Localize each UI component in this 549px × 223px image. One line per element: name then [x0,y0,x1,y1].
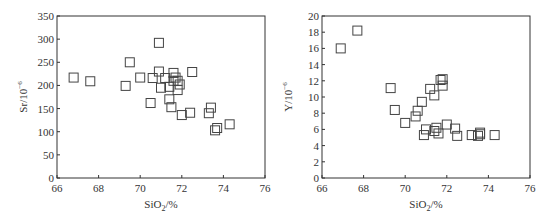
data-point-square [390,105,399,114]
data-point-square [442,120,451,129]
y-tick-label: 200 [38,79,55,91]
data-point-square [422,125,431,134]
x-tick-label: 76 [525,182,537,194]
data-point-square [154,67,163,76]
x-tick-label: 72 [441,182,452,194]
y-tick-label: 100 [38,126,55,138]
data-point-square [419,131,428,140]
plot-area: 666870727476050100150200250300350SiO2/%S… [16,10,271,213]
data-point-square [413,106,422,115]
data-point-square [411,112,420,121]
data-point-square [161,74,170,83]
y-vs-sio2-chart: 66687072747602468101214161820SiO2/%Y/10−… [265,0,540,223]
data-point-square [146,99,155,108]
x-tick-label: 70 [135,182,147,194]
y-tick-label: 18 [308,26,320,38]
y-tick-label: 2 [314,156,320,168]
data-point-square [438,81,447,90]
y-tick-label: 4 [314,140,320,152]
x-tick-label: 68 [358,182,370,194]
data-point-square [86,77,95,86]
axes-frame [57,16,265,178]
y-tick-label: 300 [38,33,55,45]
y-tick-label: 6 [314,123,320,135]
y-axis-label: Y/10−6 [281,82,294,112]
x-tick-label: 72 [176,182,187,194]
data-point-square [438,75,447,84]
data-point-square [173,86,182,95]
data-point-square [213,124,222,133]
x-axis-label: SiO2/% [144,198,177,213]
data-point-square [436,75,445,84]
data-point-square [490,131,499,140]
data-point-square [417,97,426,106]
y-scatter-plot: 66687072747602468101214161820SiO2/%Y/10−… [265,0,540,223]
data-point-square [401,118,410,127]
data-point-square [69,73,78,82]
y-tick-label: 20 [308,10,320,22]
y-tick-label: 0 [314,172,320,184]
x-axis-label: SiO2/% [409,198,442,213]
y-tick-label: 8 [314,107,320,119]
y-tick-label: 10 [308,91,320,103]
y-tick-label: 0 [49,172,55,184]
data-point-square [386,84,395,93]
data-point-square [136,73,145,82]
x-tick-label: 74 [218,182,230,194]
data-point-square [186,108,195,117]
data-point-square [467,131,476,140]
y-tick-label: 16 [308,42,320,54]
data-point-square [157,83,166,92]
y-tick-label: 250 [38,56,55,68]
sr-scatter-plot: 666870727476050100150200250300350SiO2/%S… [0,0,275,223]
data-point-square [148,74,157,83]
x-tick-label: 68 [93,182,105,194]
y-tick-label: 14 [308,59,320,71]
x-tick-label: 74 [483,182,495,194]
data-point-square [206,103,215,112]
plot-area: 66687072747602468101214161820SiO2/%Y/10−… [281,10,536,213]
x-tick-label: 70 [400,182,412,194]
y-tick-label: 350 [38,10,55,22]
data-point-square [336,44,345,53]
data-point-square [204,109,213,118]
sr-vs-sio2-chart: 666870727476050100150200250300350SiO2/%S… [0,0,275,223]
data-point-square [211,126,220,135]
y-tick-label: 150 [38,103,55,115]
data-point-square [188,68,197,77]
data-point-square [121,81,130,90]
y-tick-label: 50 [43,149,55,161]
data-point-square [177,111,186,120]
data-point-square [225,120,234,129]
y-tick-label: 12 [308,75,319,87]
data-point-square [353,26,362,35]
data-point-square [125,58,134,67]
data-point-square [432,123,441,132]
y-axis-label: Sr/10−6 [16,81,29,113]
data-point-square [154,38,163,47]
